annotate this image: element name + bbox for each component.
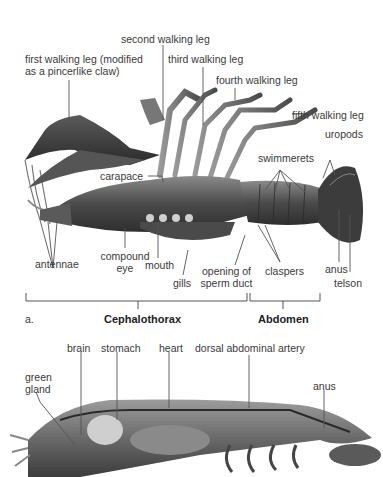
label-gills: gills — [173, 277, 191, 289]
region-cephalothorax: Cephalothorax — [104, 313, 181, 325]
label-green-gland-line1: green — [25, 371, 52, 383]
label-brain: brain — [67, 342, 90, 354]
crayfish-section — [10, 400, 381, 477]
label-compound-eye-line1: compound — [100, 250, 150, 262]
label-fourth-walking-leg: fourth walking leg — [216, 74, 298, 86]
label-stomach: stomach — [101, 342, 141, 354]
label-green-gland-line2: gland — [25, 383, 51, 395]
label-compound-eye-line2: eye — [100, 262, 150, 274]
label-opening-sperm-duct-line1: opening of — [199, 265, 254, 277]
region-abdomen: Abdomen — [258, 313, 309, 325]
label-dorsal-abdominal-artery: dorsal abdominal artery — [195, 342, 305, 354]
label-anus-b: anus — [313, 380, 336, 392]
label-antennae: antennae — [35, 258, 79, 270]
label-heart: heart — [159, 342, 183, 354]
label-claspers: claspers — [265, 265, 304, 277]
label-telson: telson — [334, 277, 362, 289]
label-third-walking-leg: third walking leg — [168, 53, 243, 65]
region-brackets — [26, 293, 320, 309]
label-swimmerets: swimmerets — [258, 152, 314, 164]
label-second-walking-leg: second walking leg — [121, 33, 210, 45]
label-uropods: uropods — [325, 128, 363, 140]
panel-label-a: a. — [25, 313, 34, 325]
label-fifth-walking-leg: fifth walking leg — [292, 109, 364, 121]
label-mouth: mouth — [145, 259, 174, 271]
label-opening-sperm-duct-line2: sperm duct — [199, 277, 254, 289]
label-carapace: carapace — [100, 170, 143, 182]
label-first-walking-leg-line1: first walking leg (modified — [25, 53, 143, 65]
label-anus-a: anus — [325, 263, 348, 275]
label-first-walking-leg-line2: as a pincerlike claw) — [25, 65, 120, 77]
